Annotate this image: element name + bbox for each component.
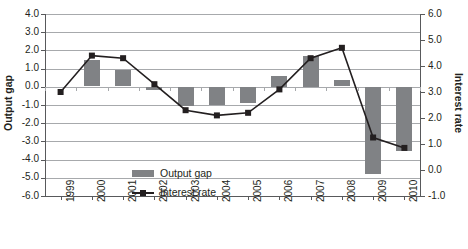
- y-axis-right-tick-mark: [421, 14, 425, 15]
- y-axis-left-tick-mark: [41, 69, 45, 70]
- x-axis-tick-label-2010: 2010: [408, 180, 419, 202]
- zero-baseline-tick: [170, 87, 171, 91]
- interest-rate-marker-2001: [120, 55, 126, 61]
- interest-rate-marker-2007: [308, 55, 314, 61]
- y-axis-left-tick-mark: [41, 196, 45, 197]
- zero-baseline-tick: [45, 87, 46, 91]
- zero-baseline-tick: [139, 87, 140, 91]
- output-gap-interest-rate-chart: Output gap Interest rate 4.03.02.01.00.0…: [0, 0, 468, 249]
- x-axis-tick-label-2005: 2005: [252, 180, 263, 202]
- y-axis-right-tick-mark: [421, 144, 425, 145]
- y-axis-left-tick-mark: [41, 178, 45, 179]
- x-axis-tick-label-2008: 2008: [346, 180, 357, 202]
- interest-rate-marker-2003: [183, 107, 189, 113]
- line-series-interest-rate: [0, 0, 468, 249]
- x-axis-tick-label-2007: 2007: [315, 180, 326, 202]
- y-axis-left-tick-mark: [41, 50, 45, 51]
- y-axis-left-tick-mark: [41, 160, 45, 161]
- interest-rate-marker-2005: [245, 110, 251, 116]
- legend-swatch-output-gap: [132, 170, 154, 177]
- zero-baseline-tick: [108, 87, 109, 91]
- interest-rate-marker-2006: [276, 86, 282, 92]
- y-axis-left-tick-mark: [41, 32, 45, 33]
- interest-rate-marker-2000: [89, 53, 95, 59]
- y-axis-right-tick-mark: [421, 196, 425, 197]
- zero-baseline-tick: [233, 87, 234, 91]
- y-axis-left-tick-mark: [41, 123, 45, 124]
- y-axis-left-tick-mark: [41, 141, 45, 142]
- zero-baseline-tick: [201, 87, 202, 91]
- y-axis-right-tick-mark: [421, 118, 425, 119]
- x-axis-tick-label-1999: 1999: [65, 180, 76, 202]
- zero-baseline-tick: [76, 87, 77, 91]
- zero-baseline-tick: [264, 87, 265, 91]
- interest-rate-marker-2010: [401, 145, 407, 151]
- interest-rate-marker-2004: [214, 112, 220, 118]
- interest-rate-polyline: [61, 48, 405, 148]
- interest-rate-marker-2002: [151, 81, 157, 87]
- zero-baseline-tick: [326, 87, 327, 91]
- x-axis-tick-label-2001: 2001: [127, 180, 138, 202]
- y-axis-left-tick-mark: [41, 105, 45, 106]
- zero-baseline-tick: [420, 87, 421, 91]
- x-axis-tick-label-2004: 2004: [221, 180, 232, 202]
- y-axis-left-spine: [45, 14, 46, 197]
- zero-baseline-tick: [358, 87, 359, 91]
- x-axis-tick-label-2006: 2006: [283, 180, 294, 202]
- y-axis-left-tick-mark: [41, 14, 45, 15]
- y-axis-right-tick-mark: [421, 40, 425, 41]
- legend-marker-interest-rate: [140, 190, 146, 196]
- x-axis-spine: [45, 196, 421, 197]
- interest-rate-marker-2009: [370, 135, 376, 141]
- x-axis-tick-label-2009: 2009: [377, 180, 388, 202]
- y-axis-right-tick-mark: [421, 92, 425, 93]
- zero-baseline-tick: [389, 87, 390, 91]
- legend-label-output-gap: Output gap: [160, 167, 212, 179]
- interest-rate-marker-1999: [58, 89, 64, 95]
- x-axis-tick-label-2000: 2000: [96, 180, 107, 202]
- zero-baseline-tick: [295, 87, 296, 91]
- legend-label-interest-rate: Interest rate: [160, 186, 216, 198]
- interest-rate-marker-2008: [339, 45, 345, 51]
- y-axis-right-tick-mark: [421, 170, 425, 171]
- y-axis-right-tick-mark: [421, 66, 425, 67]
